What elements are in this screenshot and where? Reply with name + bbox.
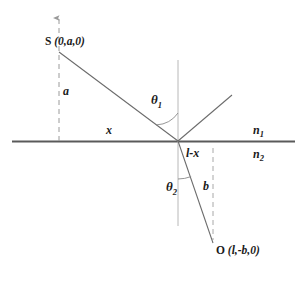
n1-subscript: 1	[260, 129, 264, 139]
reflected-ray	[178, 95, 232, 141]
angle-arc-theta2	[178, 177, 191, 179]
angle-theta1-label: θ1	[151, 93, 162, 109]
ray-diagram-figure: S (0,a,0) a x θ1 θ2 l-x b n1 n2 O (l,-b,…	[0, 0, 303, 281]
theta1-subscript: 1	[158, 100, 162, 110]
refractive-index-n2-label: n2	[253, 148, 264, 163]
height-b-label: b	[203, 180, 209, 192]
source-point-label: S (0,a,0)	[45, 36, 85, 48]
angle-theta2-label: θ2	[166, 180, 177, 196]
n2-symbol: n	[253, 147, 260, 161]
height-a-label: a	[63, 85, 69, 97]
observer-point-symbol: O	[216, 244, 225, 256]
theta1-symbol: θ	[151, 92, 158, 107]
distance-l-minus-x-label: l-x	[186, 147, 199, 159]
distance-x-label: x	[106, 124, 112, 136]
n2-subscript: 2	[260, 153, 264, 163]
source-point-coords: (0,a,0)	[54, 35, 85, 47]
refractive-index-n1-label: n1	[253, 124, 264, 139]
theta2-subscript: 2	[173, 187, 177, 197]
observer-point-label: O (l,-b,0)	[216, 245, 260, 257]
theta2-symbol: θ	[166, 179, 173, 194]
observer-point-coords: (l,-b,0)	[228, 244, 260, 256]
n1-symbol: n	[253, 123, 260, 137]
angle-arc-theta1	[157, 113, 179, 125]
